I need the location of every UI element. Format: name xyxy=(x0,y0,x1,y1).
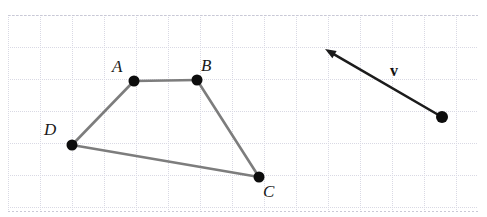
figure-canvas: A B C D v xyxy=(0,0,487,217)
vector-arrowhead-icon xyxy=(325,49,337,58)
vertex-label-D: D xyxy=(44,121,56,138)
vertex-point-B xyxy=(192,75,203,86)
polygon-edge-BC xyxy=(197,80,259,177)
vector-tail-point xyxy=(436,111,448,123)
polygon-edge-AB xyxy=(134,80,197,81)
vector-shaft xyxy=(330,52,442,117)
polygon-edge-CD xyxy=(72,145,259,177)
vertex-label-C: C xyxy=(263,183,274,200)
figure-shapes-svg xyxy=(0,0,487,217)
polygon-edge-DA xyxy=(72,81,134,145)
vertex-label-B: B xyxy=(201,57,211,74)
vector-label-v: v xyxy=(390,63,398,79)
vertex-label-A: A xyxy=(112,58,122,75)
vertex-point-D xyxy=(67,140,78,151)
vertex-point-C xyxy=(254,172,265,183)
vertex-point-A xyxy=(129,76,140,87)
